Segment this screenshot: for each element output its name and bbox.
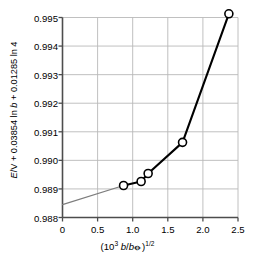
series-line-measured — [124, 14, 229, 186]
plot-area — [0, 0, 255, 264]
data-point-marker — [144, 170, 152, 178]
series-line-extrapolation-to-intercept — [63, 186, 124, 205]
data-point-marker — [120, 182, 128, 190]
data-point-marker — [179, 138, 187, 146]
data-point-marker — [137, 178, 145, 186]
data-point-marker — [225, 10, 233, 18]
chart-root: E/V + 0.03854 ln b + 0.01285 ln 4 (103 b… — [0, 0, 255, 264]
